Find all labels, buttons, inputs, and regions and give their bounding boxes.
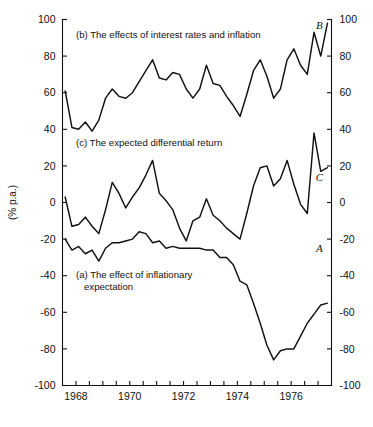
y-axis-tick-label-left: 20	[44, 160, 56, 172]
x-axis-tick-label: 1974	[226, 390, 250, 402]
y-axis-tick-label-left: -100	[34, 379, 55, 391]
y-axis-tick-label-left: 0	[50, 196, 56, 208]
y-axis-tick-label-left: -60	[40, 306, 55, 318]
y-axis-tick-label-right: -60	[340, 306, 355, 318]
x-axis-tick-label: 1972	[172, 390, 196, 402]
y-axis-tick-label-right: 0	[340, 196, 346, 208]
y-axis-tick-label-right: -80	[340, 343, 355, 355]
series-line-C	[65, 133, 327, 241]
y-axis-tick-label-left: -40	[40, 269, 55, 281]
y-axis-tick-label-left: -80	[40, 343, 55, 355]
y-axis-tick-label-right: 80	[340, 50, 352, 62]
x-axis-tick-label: 1968	[64, 390, 88, 402]
y-axis-tick-label-right: -20	[340, 233, 355, 245]
y-axis-title: (% p.a.)	[7, 185, 18, 220]
tick-labels-layer: -100-100-80-80-60-60-40-40-20-2000202040…	[34, 13, 360, 401]
plot-axes-frame	[63, 20, 332, 386]
series-line-A	[65, 232, 327, 360]
y-axis-tick-label-right: 60	[340, 86, 352, 98]
line-chart: -100-100-80-80-60-60-40-40-20-2000202040…	[0, 0, 373, 427]
series-label-C: C	[316, 171, 324, 183]
series-label-A: A	[315, 242, 323, 254]
y-axis-tick-label-right: -40	[340, 269, 355, 281]
panel-a-title-line1: (a) The effect of inflationary	[76, 269, 193, 280]
y-axis-tick-label-left: 80	[44, 50, 56, 62]
y-axis-tick-label-right: 40	[340, 123, 352, 135]
series-layer	[65, 23, 327, 360]
y-axis-tick-label-right: 100	[340, 13, 358, 25]
y-axis-tick-label-left: 100	[38, 13, 56, 25]
y-axis-tick-label-left: 60	[44, 86, 56, 98]
y-axis-tick-label-right: -100	[340, 379, 361, 391]
panel-c-title: (c) The expected differential return	[76, 137, 222, 148]
tick-marks-layer	[63, 20, 332, 386]
figure-container: -100-100-80-80-60-60-40-40-20-2000202040…	[0, 0, 373, 427]
x-axis-tick-label: 1970	[118, 390, 142, 402]
panel-a-title-line2: expectation	[84, 281, 133, 292]
y-axis-tick-label-right: 20	[340, 160, 352, 172]
y-axis-tick-label-left: 40	[44, 123, 56, 135]
x-axis-tick-label: 1976	[279, 390, 303, 402]
panel-b-title: (b) The effects of interest rates and in…	[76, 29, 261, 40]
axes-layer	[63, 20, 332, 386]
axis-title-layer: (% p.a.)	[7, 185, 18, 220]
y-axis-tick-label-left: -20	[40, 233, 55, 245]
series-label-B: B	[316, 19, 323, 31]
